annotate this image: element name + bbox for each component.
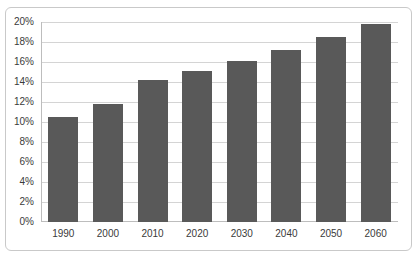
bar-series (41, 22, 398, 222)
bar (227, 61, 257, 222)
y-tick-label: 14% (0, 77, 34, 87)
y-tick-label: 0% (0, 217, 34, 227)
x-tick-label: 2040 (264, 228, 309, 240)
bar (138, 80, 168, 222)
bar-chart: 0%2%4%6%8%10%12%14%16%18%20% 19902000201… (0, 0, 419, 259)
y-tick-label: 20% (0, 17, 34, 27)
y-tick-label: 12% (0, 97, 34, 107)
bar (93, 104, 123, 222)
bar (48, 117, 78, 222)
bar (316, 37, 346, 222)
y-tick-label: 10% (0, 117, 34, 127)
y-axis-tick-labels: 0%2%4%6%8%10%12%14%16%18%20% (0, 0, 38, 259)
y-tick-label: 2% (0, 197, 34, 207)
y-tick-label: 4% (0, 177, 34, 187)
bar (182, 71, 212, 222)
x-tick-label: 2010 (130, 228, 175, 240)
y-tick-label: 16% (0, 57, 34, 67)
y-tick-label: 18% (0, 37, 34, 47)
x-tick-label: 2050 (309, 228, 354, 240)
x-tick-label: 1990 (41, 228, 86, 240)
y-tick-label: 8% (0, 137, 34, 147)
x-tick-label: 2000 (86, 228, 131, 240)
x-axis-tick-labels: 19902000201020202030204020502060 (41, 228, 398, 244)
x-tick-label: 2020 (175, 228, 220, 240)
bar (361, 24, 391, 222)
plot-area (41, 22, 398, 222)
x-tick-label: 2030 (220, 228, 265, 240)
bar (271, 50, 301, 222)
y-tick-label: 6% (0, 157, 34, 167)
x-tick-label: 2060 (353, 228, 398, 240)
